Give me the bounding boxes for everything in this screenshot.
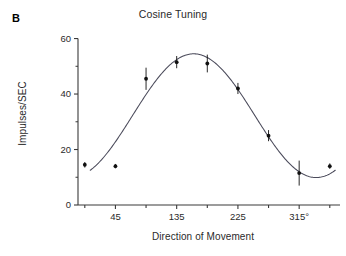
data-marker — [267, 134, 271, 138]
data-point — [175, 56, 179, 68]
y-tick-label: 0 — [66, 199, 71, 210]
data-point — [83, 162, 87, 168]
data-point — [328, 163, 332, 169]
data-marker — [236, 87, 240, 91]
tick-labels-group: 020406045135225315° — [60, 33, 309, 222]
data-marker — [175, 60, 179, 64]
data-marker — [83, 163, 87, 167]
y-axis-label: Impulses/SEC — [17, 54, 28, 174]
x-tick-label: 225 — [230, 211, 246, 222]
x-tick-label: 45 — [110, 211, 121, 222]
x-axis-label: Direction of Movement — [60, 231, 346, 242]
data-marker — [205, 62, 209, 66]
y-tick-label: 20 — [60, 144, 71, 155]
data-marker — [114, 164, 118, 168]
y-tick-label: 60 — [60, 33, 71, 44]
cosine-tuning-plot: 020406045135225315° — [0, 0, 346, 256]
figure-panel: B Cosine Tuning Impulses/SEC Direction o… — [0, 0, 346, 256]
data-points-group — [83, 55, 332, 186]
x-tick-label: 315° — [289, 211, 309, 222]
cosine-fit-curve — [90, 54, 335, 178]
x-tick-label: 135 — [169, 211, 185, 222]
data-marker — [297, 171, 301, 175]
data-point — [114, 164, 118, 168]
data-marker — [328, 164, 332, 168]
data-point — [144, 68, 148, 90]
data-point — [297, 161, 301, 186]
fit-curve-group — [90, 54, 335, 178]
data-marker — [144, 77, 148, 81]
y-tick-label: 40 — [60, 88, 71, 99]
chart-title: Cosine Tuning — [0, 8, 346, 20]
